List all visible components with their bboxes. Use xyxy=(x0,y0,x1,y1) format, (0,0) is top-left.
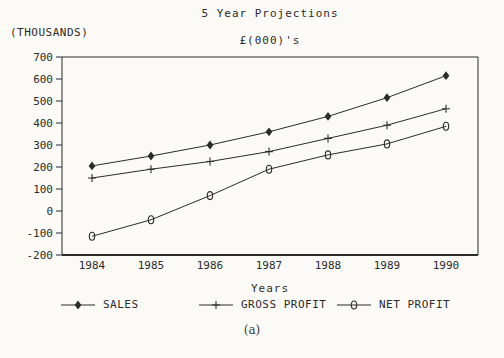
plus-marker xyxy=(88,174,96,182)
chart-title: 5 Year Projections xyxy=(36,7,504,20)
scanned-chart-page: 5 Year Projections (THOUSANDS) £(000)'s … xyxy=(0,0,504,358)
x-tick-label: 1984 xyxy=(79,259,106,272)
x-tick-label: 1987 xyxy=(256,259,283,272)
y-tick-label: -200 xyxy=(27,249,54,262)
gross-profit-line xyxy=(92,109,446,178)
y-tick-label: 100 xyxy=(33,183,53,196)
legend-label-gross-profit: GROSS PROFIT xyxy=(241,298,326,311)
diamond-marker xyxy=(266,127,273,136)
legend-label-sales: SALES xyxy=(103,298,139,311)
y-tick-label: -100 xyxy=(27,227,54,240)
chart-subtitle: £(000)'s xyxy=(36,34,504,47)
net-profit-markers xyxy=(89,122,448,240)
net-profit-zero-marker-icon xyxy=(336,299,372,311)
plus-marker xyxy=(206,158,214,166)
x-tick-label: 1988 xyxy=(315,259,342,272)
y-tick-label: 600 xyxy=(33,73,53,86)
diamond-marker xyxy=(207,141,214,150)
legend-item-sales: SALES xyxy=(60,298,139,311)
plus-marker xyxy=(442,105,450,113)
diamond-marker xyxy=(325,112,332,121)
y-tick-label: 700 xyxy=(33,51,53,64)
diamond-marker xyxy=(443,71,450,80)
y-tick-label: 300 xyxy=(33,139,53,152)
diamond-marker xyxy=(148,152,155,161)
y-tick-label: 200 xyxy=(33,161,53,174)
plus-marker xyxy=(324,134,332,142)
x-tick-label: 1985 xyxy=(138,259,165,272)
projection-line-chart: 7006005004003002001000-100-2001984198519… xyxy=(0,48,504,280)
plus-marker xyxy=(212,301,220,309)
x-tick-label: 1986 xyxy=(197,259,224,272)
x-tick-label: 1990 xyxy=(433,259,460,272)
y-tick-label: 0 xyxy=(46,205,53,218)
x-axis-label: Years xyxy=(36,282,504,295)
legend-label-net-profit: NET PROFIT xyxy=(379,298,450,311)
y-tick-label: 400 xyxy=(33,117,53,130)
diamond-marker xyxy=(89,162,96,171)
plus-marker xyxy=(265,148,273,156)
diamond-marker xyxy=(384,93,391,102)
net-profit-line xyxy=(92,126,446,236)
legend-item-net-profit: NET PROFIT xyxy=(336,298,450,311)
plus-marker xyxy=(147,165,155,173)
gross-profit-plus-marker-icon xyxy=(198,299,234,311)
legend-item-gross-profit: GROSS PROFIT xyxy=(198,298,326,311)
figure-caption: (a) xyxy=(0,323,504,337)
x-tick-label: 1989 xyxy=(374,259,401,272)
sales-diamond-marker-icon xyxy=(60,299,96,311)
plus-marker xyxy=(383,121,391,129)
diamond-marker xyxy=(75,300,82,309)
y-tick-label: 500 xyxy=(33,95,53,108)
